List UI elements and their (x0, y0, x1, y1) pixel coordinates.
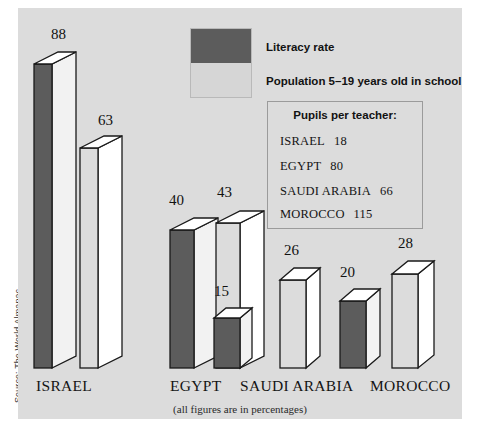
category-label-morocco: MOROCCO (370, 377, 450, 395)
pupils-value-israel: 18 (334, 134, 347, 148)
pupils-row-saudi-arabia: SAUDI ARABIA66 (280, 184, 393, 199)
legend: Literacy rate Population 5–19 years old … (190, 28, 470, 102)
pupils-value-saudi-arabia: 66 (380, 184, 393, 198)
value-label-egypt-school: 43 (217, 184, 232, 201)
bar-morocco-school (392, 261, 434, 368)
bar-saudi-literacy (214, 308, 252, 368)
category-label-israel: ISRAEL (36, 377, 92, 395)
pupils-row-egypt: EGYPT80 (280, 159, 343, 174)
pupils-country-saudi-arabia: SAUDI ARABIA (280, 184, 371, 198)
category-label-egypt: EGYPT (170, 377, 221, 395)
legend-swatch-population-in-school (191, 63, 251, 97)
pupils-country-israel: ISRAEL (280, 134, 325, 148)
legend-label-literacy-rate: Literacy rate (266, 41, 334, 53)
category-label-saudi-arabia: SAUDI ARABIA (240, 377, 353, 395)
pupils-value-egypt: 80 (330, 159, 343, 173)
legend-label-population-in-school: Population 5–19 years old in school (266, 75, 462, 87)
pupils-per-teacher-box: Pupils per teacher: ISRAEL18 EGYPT80 SAU… (267, 101, 423, 229)
bar-israel-literacy (34, 52, 76, 368)
value-label-egypt-literacy: 40 (169, 192, 184, 209)
pupils-value-morocco: 115 (354, 207, 373, 221)
value-label-israel-literacy: 88 (51, 26, 66, 43)
bar-morocco-literacy (340, 289, 380, 368)
legend-swatches (190, 28, 252, 98)
chart-screenshot: Source: The World Almanac (0, 0, 481, 444)
pupils-row-israel: ISRAEL18 (280, 134, 347, 149)
value-label-israel-school: 63 (98, 112, 113, 129)
pupils-row-morocco: MOROCCO115 (280, 207, 373, 222)
pupils-per-teacher-title: Pupils per teacher: (268, 109, 422, 121)
value-label-morocco-literacy: 20 (340, 264, 355, 281)
pupils-country-egypt: EGYPT (280, 159, 321, 173)
legend-swatch-literacy-rate (191, 29, 251, 63)
chart-panel: 88 63 40 43 15 26 20 28 ISRAEL EGYPT SAU… (18, 8, 462, 419)
bar-egypt-literacy (170, 218, 218, 368)
bar-israel-school (80, 136, 122, 368)
value-label-saudi-school: 26 (284, 242, 299, 259)
bar-saudi-school (280, 268, 320, 368)
footnote: (all figures are in percentages) (18, 403, 462, 415)
pupils-country-morocco: MOROCCO (280, 207, 345, 221)
value-label-saudi-literacy: 15 (214, 283, 229, 300)
value-label-morocco-school: 28 (398, 235, 413, 252)
